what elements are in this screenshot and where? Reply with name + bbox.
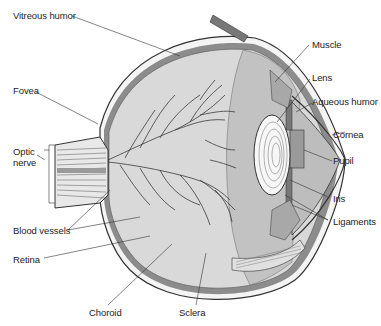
- label-aqueous-humor: Aqueous humor: [312, 96, 378, 107]
- label-lens: Lens: [312, 72, 332, 83]
- label-vitreous-humor: Vitreous humor: [13, 10, 76, 21]
- lens-shape: [254, 115, 290, 195]
- optic-nerve: [55, 137, 108, 208]
- label-blood-vessels: Blood vessels: [13, 225, 70, 236]
- label-iris: Iris: [333, 193, 345, 204]
- label-cornea: Cornea: [333, 129, 364, 140]
- label-sclera: Sclera: [179, 307, 205, 318]
- label-optic-nerve-line1: Optic: [13, 146, 35, 157]
- label-optic-nerve-line2: nerve: [13, 157, 36, 168]
- label-muscle: Muscle: [312, 39, 342, 50]
- eye-anatomy-diagram: Vitreous humor Fovea Optic nerve Blood v…: [0, 0, 381, 326]
- label-ligaments: Ligaments: [333, 216, 376, 227]
- label-pupil: Pupil: [333, 155, 354, 166]
- label-choroid: Choroid: [89, 307, 122, 318]
- label-retina: Retina: [13, 254, 40, 265]
- label-fovea: Fovea: [13, 85, 39, 96]
